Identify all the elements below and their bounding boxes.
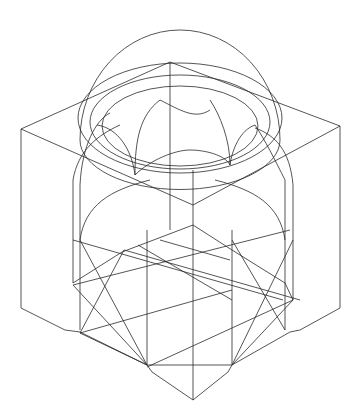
arch-curve [210,100,230,165]
star-line [138,245,232,300]
star-line [73,240,283,300]
pier-verticals [73,180,293,365]
cube-edge [21,62,170,129]
cube-edge [170,62,340,126]
dome-base-curve [80,140,280,190]
cube-edge [228,365,232,372]
star-line [73,230,290,285]
star-line [160,240,230,260]
cube-edge [290,330,300,332]
cube-edge [232,332,290,365]
star-line [147,300,293,367]
cube-edge [21,308,65,330]
octagon-outline [73,225,293,365]
architectural-drawing [0,0,359,420]
cube-edge [152,372,193,400]
cube-edge [300,308,340,330]
cube-edge [65,330,80,332]
arch-curve [215,180,285,240]
dome-drum-rings [78,63,282,173]
arch-curve [80,180,150,240]
drum-ring [78,63,282,173]
cube-edges [21,62,340,400]
dome-outline [80,30,280,140]
star-line [232,240,293,365]
arch-curve [230,125,255,165]
arch-curve [160,100,210,114]
star-line [80,290,232,333]
cube-edge [193,372,228,400]
wireframe-svg [0,0,359,420]
drum-ring [102,86,258,166]
star-line [124,250,300,300]
arch-curve [135,150,190,175]
star-line [80,240,147,365]
arch-curve [80,113,110,185]
star-line [80,250,124,333]
